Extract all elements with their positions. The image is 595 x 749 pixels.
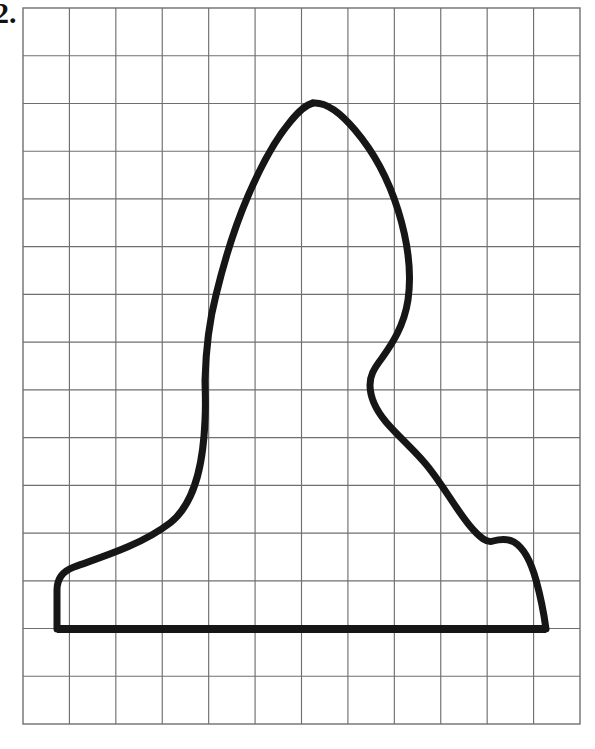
graph-paper-figure bbox=[0, 0, 595, 749]
figure-page: 2. bbox=[0, 0, 595, 749]
vase-left-profile-path bbox=[57, 103, 313, 629]
grid-lines bbox=[23, 8, 580, 724]
